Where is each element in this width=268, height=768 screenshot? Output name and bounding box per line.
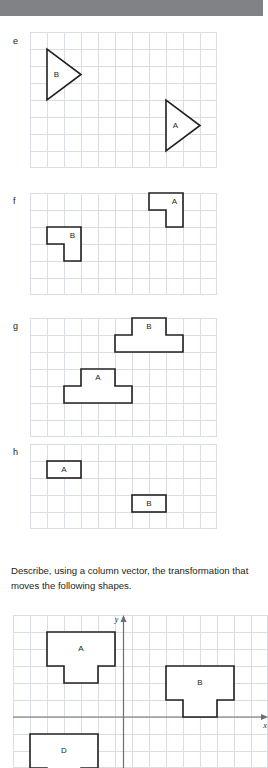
y-axis-label: y [114,615,119,624]
shape-label-a: A [173,121,179,130]
shape-b [47,49,81,100]
shape-label-b: B [54,70,59,79]
shape-label-b: B [146,322,151,331]
shapes-h: AB [30,444,217,529]
shape-label-d: D [61,746,67,755]
shape-b [47,227,81,261]
prompt-text: Describe, using a column vector, the tra… [11,564,257,593]
shape-label-b: B [197,678,202,687]
panel-letter-e: e [13,36,18,46]
shape-a [149,193,183,227]
shapes-e: BA [30,32,217,168]
shape-label-b: B [146,499,151,508]
coordinate-plot: yxABD [13,615,268,768]
shape-label-a: A [61,465,67,474]
panel-letter-g: g [13,321,18,331]
top-banner-bar [0,0,263,16]
shapes-g: BA [30,318,217,437]
shape-label-a: A [172,197,178,206]
shape-label-a: A [78,644,84,653]
shapes-f: AB [30,193,217,295]
panel-letter-f: f [13,196,16,206]
panel-letter-h: h [13,447,18,457]
y-axis-arrow-icon [121,615,127,622]
shape-b [166,666,234,717]
shape-label-b: B [70,231,75,240]
x-axis-arrow-icon [261,714,268,720]
shape-label-a: A [95,373,101,382]
shape-a [166,100,200,151]
shape-a [47,632,115,683]
x-axis-label: x [262,721,267,730]
